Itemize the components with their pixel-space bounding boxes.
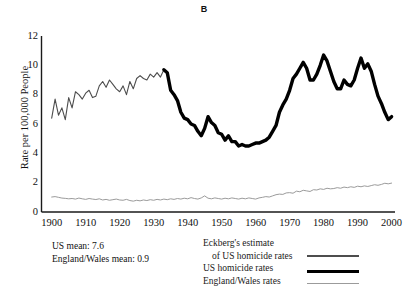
legend-label: England/Wales rates — [203, 275, 281, 288]
x-tick-label: 2000 — [381, 217, 402, 228]
x-tick-label: 1960 — [245, 217, 266, 228]
legend-row: of US homicide rates — [203, 250, 292, 263]
figure-panel-b: B Rate per 100,000 People 024681012 1900… — [0, 0, 408, 304]
legend-label: Eckberg's estimate — [203, 237, 274, 250]
legend-label: US homicide rates — [203, 262, 273, 275]
x-tick-label: 1990 — [347, 217, 368, 228]
note-us-mean: US mean: 7.6 — [52, 240, 149, 253]
note-ew-mean: England/Wales mean: 0.9 — [52, 253, 149, 266]
x-tick-label: 1910 — [75, 217, 96, 228]
x-tick-label: 1940 — [177, 217, 198, 228]
x-tick-label: 1900 — [41, 217, 62, 228]
x-tick-label: 1920 — [109, 217, 130, 228]
legend-label: of US homicide rates — [203, 250, 292, 263]
x-tick-label: 1980 — [313, 217, 334, 228]
legend-swatch-eckberg — [307, 255, 359, 257]
legend-row: Eckberg's estimate — [203, 237, 292, 250]
x-tick-label: 1950 — [211, 217, 232, 228]
mean-annotations: US mean: 7.6 England/Wales mean: 0.9 — [52, 240, 149, 265]
legend-swatch-england-wales — [307, 283, 359, 284]
legend-row: England/Wales rates — [203, 275, 292, 288]
legend-swatch-us-homicide — [307, 270, 359, 274]
x-tick-label: 1930 — [143, 217, 164, 228]
legend: Eckberg's estimate of US homicide rates … — [203, 237, 292, 287]
x-tick-label: 1970 — [279, 217, 300, 228]
legend-row: US homicide rates — [203, 262, 292, 275]
